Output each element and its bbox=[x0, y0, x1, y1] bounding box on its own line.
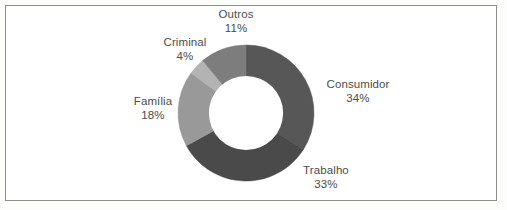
chart-figure: Outros 11% Criminal 4% Família 18% Consu… bbox=[0, 0, 507, 210]
slice-label-familia-name: Família bbox=[134, 95, 172, 107]
slice-label-criminal-name: Criminal bbox=[164, 36, 207, 48]
slice-label-outros-value: 11% bbox=[199, 22, 273, 36]
slice-label-trabalho: Trabalho 33% bbox=[288, 164, 364, 191]
slice-label-outros: Outros 11% bbox=[199, 8, 273, 35]
slice-label-trabalho-value: 33% bbox=[288, 178, 364, 192]
slice-label-outros-name: Outros bbox=[218, 8, 253, 20]
slice-label-consumidor: Consumidor 34% bbox=[312, 78, 404, 105]
slice-label-consumidor-name: Consumidor bbox=[327, 78, 390, 90]
slice-label-criminal-value: 4% bbox=[148, 50, 222, 64]
slice-label-criminal: Criminal 4% bbox=[148, 36, 222, 63]
slice-label-familia: Família 18% bbox=[118, 95, 188, 122]
slice-label-consumidor-value: 34% bbox=[312, 92, 404, 106]
slice-label-trabalho-name: Trabalho bbox=[303, 164, 349, 176]
donut-center-hole bbox=[209, 76, 283, 150]
slice-label-familia-value: 18% bbox=[118, 109, 188, 123]
